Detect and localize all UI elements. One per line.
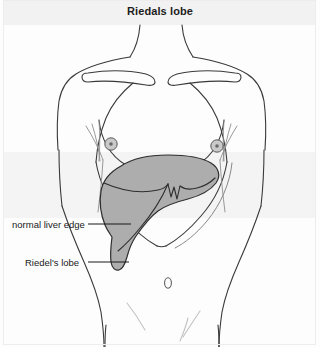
left-nipple-group (105, 138, 117, 150)
left-inguinal-crease (127, 303, 145, 330)
right-inguinal-crease-2 (180, 318, 188, 341)
right-clavicle (168, 71, 241, 86)
left-thigh-line (105, 325, 106, 347)
right-thigh-line (218, 325, 219, 347)
right-nipple-center (215, 144, 219, 148)
right-chest-wall-line (220, 160, 225, 212)
left-clavicle (82, 71, 155, 86)
right-nipple-group (211, 140, 223, 152)
left-thorax-line (96, 83, 133, 162)
left-arm-inner (59, 150, 62, 206)
right-flank (219, 206, 261, 347)
anatomy-diagram (0, 0, 320, 347)
neck-left-line (130, 25, 140, 57)
figure-panel: Riedals lobe (0, 0, 320, 347)
neck-right-line (182, 25, 193, 57)
label-normal-liver-edge: normal liver edge (12, 219, 85, 230)
umbilicus (165, 278, 172, 288)
left-nipple-center (109, 142, 113, 146)
right-arm-inner (261, 150, 264, 206)
label-riedels-lobe: Riedel's lobe (25, 257, 79, 268)
xiphoid-junction (157, 246, 166, 247)
liver-shape (100, 155, 219, 270)
right-inguinal-crease (183, 311, 200, 337)
